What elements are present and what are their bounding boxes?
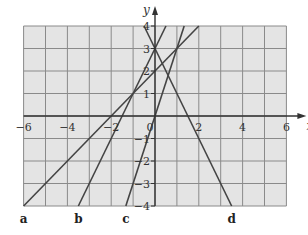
y-tick-label: −1 — [134, 133, 150, 146]
series-label-c: c — [122, 212, 129, 226]
x-tick-label: 4 — [239, 121, 246, 134]
y-axis-arrow-icon — [152, 6, 158, 15]
x-tick-label: −4 — [59, 121, 75, 134]
x-axis-arrow-icon — [297, 113, 306, 119]
coordinate-plot: −6−4−202464321−1−2−3−4xy abcd — [0, 0, 308, 235]
series-labels: abcd — [20, 212, 237, 226]
y-tick-label: 3 — [143, 43, 150, 56]
x-tick-label: 2 — [195, 121, 202, 134]
series-label-a: a — [20, 212, 28, 226]
x-tick-label: 6 — [283, 121, 290, 134]
y-tick-label: −4 — [134, 200, 150, 213]
y-tick-label: 2 — [143, 65, 150, 78]
x-tick-label: −2 — [103, 121, 119, 134]
x-axis-label: x — [306, 119, 308, 133]
y-axis-label: y — [142, 3, 150, 17]
y-tick-label: 1 — [143, 88, 150, 101]
series-label-d: d — [227, 212, 236, 226]
x-tick-label: −6 — [15, 121, 31, 134]
y-tick-label: −3 — [134, 178, 150, 191]
series-label-b: b — [74, 212, 82, 226]
y-tick-label: 4 — [143, 20, 150, 33]
y-tick-label: −2 — [134, 155, 150, 168]
